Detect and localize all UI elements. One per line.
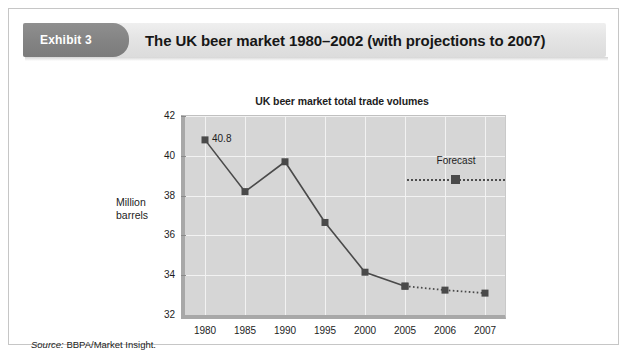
header-band-shadow	[25, 57, 608, 61]
exhibit-badge-label: Exhibit 3	[40, 33, 92, 47]
y-axis-tick-label: 32	[153, 309, 175, 320]
forecast-legend-label: Forecast	[421, 155, 491, 166]
y-axis-tick-label: 40	[153, 150, 175, 161]
x-axis-tick-label: 2000	[345, 325, 385, 336]
y-axis-tick-label: 42	[153, 110, 175, 121]
page-title: The UK beer market 1980–2002 (with proje…	[145, 23, 546, 57]
y-axis-tick-mark	[181, 275, 186, 276]
data-point-marker	[402, 283, 409, 290]
forecast-legend-key	[407, 175, 505, 184]
data-point-marker	[282, 158, 289, 165]
y-axis-tick-mark	[181, 196, 186, 197]
x-axis-tick-label: 2006	[425, 325, 465, 336]
y-axis-tick-mark	[181, 235, 186, 236]
source-value: BBPA/Market Insight.	[64, 339, 156, 350]
chart-title: UK beer market total trade volumes	[177, 95, 507, 107]
data-point-marker	[322, 219, 329, 226]
source-note: Source: BBPA/Market Insight.	[31, 339, 156, 350]
x-axis-tick-label: 1980	[185, 325, 225, 336]
data-point-marker	[442, 287, 449, 294]
forecast-legend-marker	[451, 175, 460, 184]
x-axis-tick-label: 1990	[265, 325, 305, 336]
exhibit-badge: Exhibit 3	[23, 23, 129, 57]
x-axis-tick-label: 2005	[385, 325, 425, 336]
data-point-marker	[202, 136, 209, 143]
series-line-actual	[205, 140, 405, 286]
y-axis-tick-label: 38	[153, 190, 175, 201]
y-axis-tick-mark	[181, 156, 186, 157]
y-axis-tick-label: 34	[153, 269, 175, 280]
y-axis-tick-mark	[181, 116, 186, 117]
exhibit-frame: Exhibit 3 The UK beer market 1980–2002 (…	[8, 8, 619, 345]
y-axis-tick-label: 36	[153, 229, 175, 240]
y-axis-title-line-2: barrels	[116, 209, 174, 222]
data-point-marker	[362, 269, 369, 276]
source-keyword: Source:	[31, 339, 64, 350]
x-axis-tick-label: 1995	[305, 325, 345, 336]
data-point-marker	[242, 188, 249, 195]
x-axis-tick-label: 2007	[465, 325, 505, 336]
data-point-label: 40.8	[212, 133, 231, 144]
x-axis-tick-label: 1985	[225, 325, 265, 336]
series-layer	[185, 116, 505, 315]
data-point-marker	[482, 290, 489, 297]
